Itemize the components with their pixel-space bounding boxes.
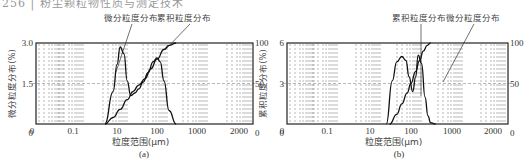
legend-label: 累积粒度分布 <box>392 13 446 23</box>
legend-leader-line <box>443 24 474 82</box>
legend-leader-line <box>165 24 190 50</box>
grid-lines <box>290 44 505 123</box>
legend-label: 微分粒度分布 <box>104 13 158 23</box>
legend-leader-line <box>116 24 132 72</box>
x-tick-label: 10 <box>113 126 123 136</box>
y-left-tick-label: 1.5 <box>22 79 34 89</box>
y-right-tick-label: 50 <box>510 79 520 89</box>
x-tick-label: 0 <box>30 126 35 136</box>
x-tick-label: 0.1 <box>321 126 332 136</box>
legend-label: 累积粒度分布 <box>157 13 211 23</box>
x-tick-label: 1000 <box>443 126 462 136</box>
x-axis-label: 粒度范围(μm) <box>112 136 170 147</box>
y-left-tick-label: 6 <box>280 38 285 48</box>
chart-b: 0360501000.110100100020000粒度范围(μm)累积粒度分布… <box>258 13 524 159</box>
y-left-tick-label: 3 <box>280 79 285 89</box>
x-tick-label: 10 <box>366 126 376 136</box>
y-right-tick-label: 0 <box>255 128 260 138</box>
x-tick-label: 100 <box>404 126 418 136</box>
x-tick-label: 2000 <box>230 126 249 136</box>
chart-a: 01.53.00501000.110100100020000粒度范围(μm)微分… <box>7 13 269 159</box>
x-tick-label: 0.1 <box>67 126 78 136</box>
x-axis-label: 粒度范围(μm) <box>365 136 423 147</box>
x-tick-label: 1000 <box>188 126 207 136</box>
x-tick-label: 0 <box>280 126 285 136</box>
x-tick-label: 100 <box>150 126 164 136</box>
y-left-tick-label: 3.0 <box>22 38 34 48</box>
differential-distribution-curve <box>386 55 435 124</box>
y-right-tick-label: 100 <box>255 38 269 48</box>
panel-caption: (b) <box>394 149 405 159</box>
figure: 01.53.00501000.110100100020000粒度范围(μm)微分… <box>0 0 532 168</box>
y-axis-label: 微分粒度分布(%) <box>7 49 17 118</box>
differential-distribution-curve <box>105 47 176 124</box>
y-right-tick-label: 100 <box>510 38 524 48</box>
legend-label: 微分粒度分布 <box>446 13 500 23</box>
y-axis-label: 累积粒度分布(%) <box>258 49 268 118</box>
x-tick-label: 2000 <box>484 126 503 136</box>
panel-caption: (a) <box>139 149 149 159</box>
y-right-tick-label: 0 <box>510 128 515 138</box>
